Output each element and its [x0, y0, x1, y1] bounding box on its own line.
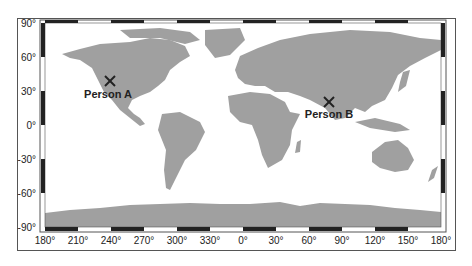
label-person-a: Person A: [84, 88, 132, 100]
greenland: [205, 28, 245, 58]
x-tick: 120°: [360, 235, 390, 246]
y-tick: 30°: [10, 86, 36, 97]
se-asia-islands: [355, 118, 410, 132]
australia: [372, 140, 414, 172]
madagascar: [295, 140, 301, 153]
x-tick: 150°: [393, 235, 423, 246]
x-tick: 300°: [162, 235, 192, 246]
label-person-b: Person B: [305, 108, 353, 120]
y-tick: 0°: [10, 120, 36, 131]
x-tick: 240°: [96, 235, 126, 246]
y-tick: 90°: [10, 18, 36, 29]
x-tick: 0°: [228, 235, 258, 246]
x-tick: 210°: [63, 235, 93, 246]
y-tick: -30°: [10, 154, 36, 165]
north-america: [62, 38, 190, 126]
x-tick: 180°: [30, 235, 60, 246]
x-tick: 60°: [294, 235, 324, 246]
landmasses: [45, 28, 441, 227]
x-tick: 270°: [129, 235, 159, 246]
x-tick: 180°: [426, 235, 456, 246]
antarctica: [45, 202, 441, 227]
x-tick: 330°: [195, 235, 225, 246]
new-zealand: [428, 166, 438, 182]
y-tick: -60°: [10, 188, 36, 199]
africa: [228, 92, 300, 168]
south-america: [158, 112, 205, 190]
y-tick: 60°: [10, 52, 36, 63]
x-tick: 90°: [327, 235, 357, 246]
world-map: [0, 0, 472, 266]
y-tick: -90°: [10, 222, 36, 233]
x-tick: 30°: [261, 235, 291, 246]
